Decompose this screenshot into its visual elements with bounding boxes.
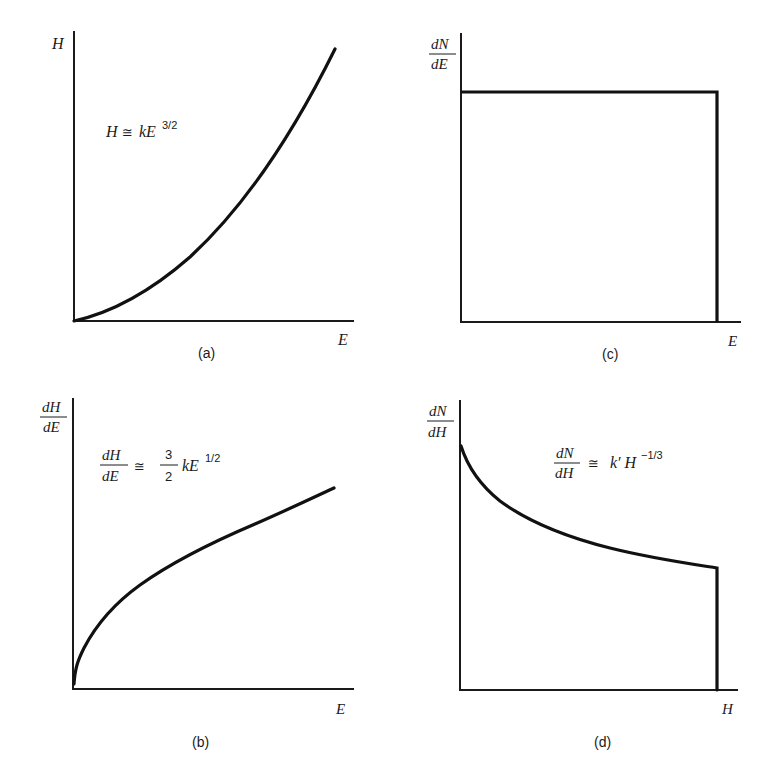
svg-text:dH: dH <box>102 447 122 463</box>
equation-a: H ≅ kE 3/2 <box>105 119 177 140</box>
figure: H E H ≅ kE 3/2 (a) dN dE E (c) dH dE <box>0 0 777 776</box>
equation-d: dN dH ≅ k′ H −1/3 <box>554 445 663 481</box>
curve-h-vs-e <box>74 49 335 321</box>
panel-label-c: (c) <box>602 346 618 362</box>
panel-c: dN dE E (c) <box>429 33 741 362</box>
svg-text:H: H <box>105 123 119 140</box>
panel-a: H E H ≅ kE 3/2 (a) <box>51 31 354 361</box>
x-axis-label: E <box>335 701 345 717</box>
x-axis-label: E <box>337 331 348 348</box>
x-axis-label: E <box>727 333 737 349</box>
svg-text:3/2: 3/2 <box>162 119 177 131</box>
y-axis-label: dN dE <box>429 36 456 72</box>
svg-text:dH: dH <box>428 424 448 440</box>
y-axis-label: H <box>51 35 65 52</box>
svg-text:2: 2 <box>165 469 172 484</box>
svg-text:kE: kE <box>139 123 156 140</box>
panel-label-b: (b) <box>192 734 209 750</box>
svg-text:≅: ≅ <box>122 125 133 140</box>
curve-dn-dh-vs-h <box>461 446 717 690</box>
panel-d: dN dH H dN dH ≅ k′ H −1/3 (d) <box>427 400 738 750</box>
panel-label-a: (a) <box>198 345 215 361</box>
x-axis-label: H <box>721 701 734 717</box>
svg-text:≅: ≅ <box>588 456 599 471</box>
svg-text:dE: dE <box>43 419 60 435</box>
y-axis-label: dN dH <box>427 403 454 440</box>
svg-text:dN: dN <box>429 403 448 419</box>
svg-text:dH: dH <box>42 399 62 415</box>
svg-text:k′ H: k′ H <box>610 454 638 471</box>
panel-label-d: (d) <box>594 734 611 750</box>
curve-dn-de-uniform <box>461 92 717 322</box>
y-axis-label: dH dE <box>40 399 67 435</box>
svg-text:kE: kE <box>182 457 199 474</box>
svg-text:dN: dN <box>556 445 575 461</box>
svg-text:1/2: 1/2 <box>205 452 220 464</box>
svg-text:dN: dN <box>431 36 450 52</box>
svg-text:dE: dE <box>102 468 119 484</box>
svg-text:dE: dE <box>431 56 448 72</box>
panel-b: dH dE E dH dE ≅ 3 2 kE 1/2 (b) <box>40 398 354 750</box>
svg-text:dH: dH <box>555 465 575 481</box>
svg-text:≅: ≅ <box>134 459 145 474</box>
curve-dh-de-vs-e <box>74 488 334 684</box>
svg-text:−1/3: −1/3 <box>641 449 663 461</box>
equation-b: dH dE ≅ 3 2 kE 1/2 <box>100 447 220 484</box>
svg-text:3: 3 <box>165 447 172 462</box>
